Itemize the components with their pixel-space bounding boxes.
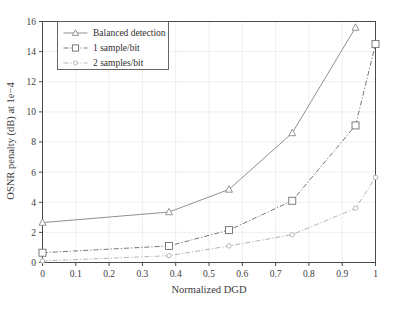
legend-item-label: 2 samples/bit [93,58,144,68]
x-tick-label: 0 [40,269,45,279]
y-tick-label: 12 [27,77,37,87]
y-tick-label: 6 [31,168,36,178]
chart-legend: Balanced detection1 sample/bit2 samples/… [58,22,169,70]
legend-marker [72,45,78,51]
y-tick-label: 16 [27,17,37,27]
y-tick-label: 2 [31,228,36,238]
data-point-marker [373,175,377,179]
y-tick-label: 4 [31,198,36,208]
legend-marker [73,61,77,65]
y-axis-label: OSNR penalty (dB) at 1e−4 [5,82,17,200]
chart-figure: 00.10.20.30.40.50.60.70.80.91 0246810121… [0,0,396,314]
x-tick-label: 0.7 [270,269,282,279]
data-point-marker [167,254,171,258]
data-point-marker [40,259,44,263]
x-tick-label: 0.8 [303,269,315,279]
x-tick-label: 0.9 [336,269,348,279]
x-tick-label: 0.1 [70,269,82,279]
data-point-marker [225,227,232,234]
y-tick-label: 10 [27,107,37,117]
y-tick-label: 8 [31,137,36,147]
data-point-marker [352,122,359,129]
x-tick-label: 0.3 [136,269,148,279]
line-chart: 00.10.20.30.40.50.60.70.80.91 0246810121… [0,0,396,314]
x-tick-label: 0.5 [203,269,215,279]
data-point-marker [372,41,379,48]
y-tick-label: 0 [31,258,36,268]
data-point-marker [227,244,231,248]
y-tick-label: 14 [27,47,37,57]
data-point-marker [39,249,46,256]
x-axis-label: Normalized DGD [172,284,247,295]
data-point-marker [290,232,294,236]
x-tick-label: 0.2 [103,269,115,279]
data-point-marker [289,197,296,204]
x-tick-label: 0.6 [236,269,248,279]
legend-item-label: 1 sample/bit [93,43,140,53]
data-point-marker [353,206,357,210]
legend-item-label: Balanced detection [93,28,166,38]
x-tick-label: 0.4 [170,269,182,279]
x-tick-label: 1 [373,269,378,279]
data-point-marker [166,242,173,249]
